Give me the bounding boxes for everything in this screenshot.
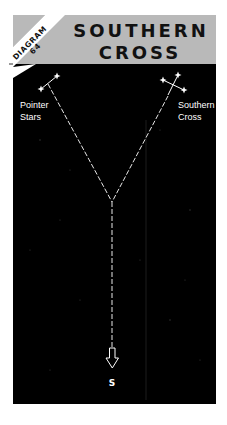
cross-label-1: Southern [178,100,215,110]
cross-label-2: Cross [178,112,202,122]
pointer-label-1: Pointer [20,100,49,110]
pointer-label-2: Stars [20,112,42,122]
title-line-1: SOUTHERN [73,20,208,41]
south-label: S [109,378,115,388]
title-line-2: CROSS [99,42,182,63]
southern-cross-diagram: DIAGRAM 64 SOUTHERN CROSS Pointer Stars … [0,0,227,425]
